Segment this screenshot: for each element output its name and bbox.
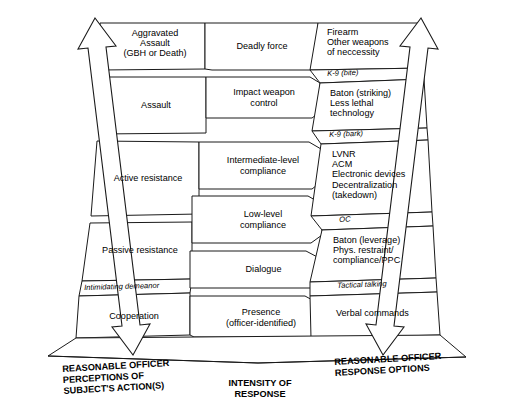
label-response-baton-leverage: Baton (leverage) Phys. restraint/ compli… (333, 235, 437, 266)
label-subject-aggravated-assault: Aggravated Assault (GBH or Death) (108, 28, 202, 59)
label-intensity-intermediate-compliance: Intermediate-level compliance (206, 143, 320, 188)
label-tactical-talking: Tactical talking (337, 279, 387, 290)
label-subject-active-resistance: Active resistance (99, 142, 197, 214)
label-subject-assault: Assault (108, 77, 204, 133)
label-response-firearm: Firearm Other weapons of neccessity (327, 27, 423, 58)
label-k9-bite: K-9 (bite) (327, 68, 359, 78)
label-response-verbal-commands: Verbal commands (336, 308, 438, 318)
use-of-force-continuum-diagram: Aggravated Assault (GBH or Death) Assaul… (0, 0, 516, 409)
label-intensity-presence: Presence (officer-identified) (200, 299, 322, 336)
label-subject-passive-resistance: Passive resistance (90, 222, 190, 279)
caption-intensity-of-response: INTENSITY OF RESPONSE (200, 378, 320, 400)
label-intensity-dialogue: Dialogue (205, 252, 322, 287)
label-intensity-impact-weapon: Impact weapon control (209, 78, 319, 117)
label-intensity-deadly-force: Deadly force (208, 24, 316, 68)
label-intensity-low-compliance: Low-level compliance (205, 197, 321, 242)
label-subject-cooperation: Cooperation (80, 296, 188, 336)
label-response-baton-striking: Baton (striking) Less lethal technology (330, 88, 426, 119)
label-oc: OC (339, 215, 351, 224)
label-response-lvnr-acm: LVNR ACM Electronic devices Decentraliza… (332, 149, 434, 200)
label-k9-bark: K-9 (bark) (329, 129, 363, 139)
